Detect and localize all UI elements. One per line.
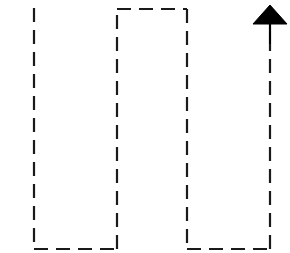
canvas-background	[0, 0, 290, 253]
figure-svg	[0, 0, 290, 253]
drawing-canvas	[0, 0, 290, 253]
